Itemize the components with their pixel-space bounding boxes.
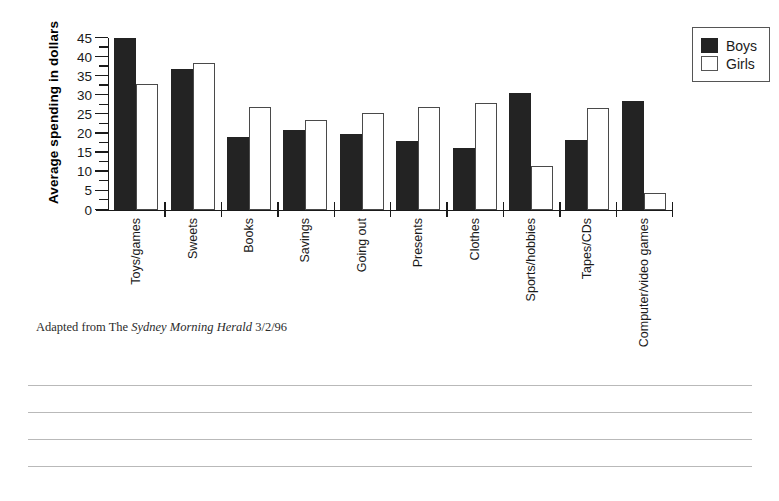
y-tick-label: 0	[62, 204, 92, 218]
legend-swatch-boys-icon	[701, 38, 718, 53]
bar-boys	[622, 101, 644, 210]
caption-prefix: Adapted from The	[36, 320, 131, 334]
bar-boys	[453, 148, 475, 210]
category-label: Clothes	[468, 218, 481, 260]
bar-group	[334, 38, 390, 210]
y-tick	[95, 75, 108, 76]
y-tick	[95, 37, 108, 38]
y-tick-label: 40	[62, 51, 92, 65]
y-tick	[95, 132, 108, 133]
bar-group	[616, 38, 672, 210]
y-tick-minor	[99, 84, 108, 85]
bar-girls	[136, 84, 158, 210]
bar-group	[559, 38, 615, 210]
x-axis-end-tick	[672, 202, 673, 217]
bar-groups	[108, 38, 672, 210]
bar-girls	[249, 107, 271, 210]
y-tick-minor	[99, 46, 108, 47]
category-label: Sweets	[186, 218, 199, 259]
bar-group	[108, 38, 164, 210]
bar-boys	[340, 134, 362, 210]
plot-area: 051015202530354045	[108, 38, 672, 210]
category-label-cell: Computer/video games	[616, 214, 672, 354]
ruled-line	[28, 439, 752, 440]
y-tick-label: 25	[62, 108, 92, 122]
category-label: Presents	[412, 218, 425, 267]
y-tick	[95, 170, 108, 171]
y-tick	[95, 94, 108, 95]
caption-source-title: Sydney Morning Herald	[131, 320, 252, 334]
bar-girls	[418, 107, 440, 210]
bar-boys	[509, 93, 531, 210]
y-tick	[95, 56, 108, 57]
y-tick-label: 15	[62, 146, 92, 160]
bar-boys	[227, 137, 249, 210]
category-label: Going out	[356, 218, 369, 272]
category-label: Computer/video games	[638, 218, 651, 347]
y-tick-minor	[99, 65, 108, 66]
y-tick-minor	[99, 142, 108, 143]
bar-girls	[587, 108, 609, 210]
ruled-line	[28, 466, 752, 467]
y-tick-minor	[99, 180, 108, 181]
y-tick	[95, 190, 108, 191]
y-tick-label: 45	[62, 32, 92, 46]
caption-date: 3/2/96	[252, 320, 287, 334]
bar-boys	[171, 69, 193, 210]
y-tick	[95, 113, 108, 114]
bar-boys	[565, 140, 587, 210]
legend-item-boys: Boys	[701, 38, 757, 53]
ruled-line	[28, 385, 752, 386]
category-label: Toys/games	[130, 218, 143, 285]
y-tick-minor	[99, 161, 108, 162]
y-tick-minor	[99, 123, 108, 124]
legend-item-girls: Girls	[701, 56, 757, 71]
bar-boys	[283, 130, 305, 210]
bar-group	[446, 38, 502, 210]
y-tick-label: 20	[62, 127, 92, 141]
category-label-cell: Presents	[390, 214, 446, 354]
ruled-writing-lines	[28, 385, 752, 493]
legend-label-boys: Boys	[726, 39, 757, 53]
source-caption: Adapted from The Sydney Morning Herald 3…	[36, 320, 287, 335]
legend-label-girls: Girls	[726, 57, 755, 71]
y-tick-label: 35	[62, 70, 92, 84]
bar-group	[164, 38, 220, 210]
x-axis-line	[96, 210, 672, 211]
y-tick-label: 5	[62, 184, 92, 198]
chart-page: Average spending in dollars 051015202530…	[0, 0, 779, 501]
y-tick-minor	[99, 104, 108, 105]
legend: Boys Girls	[692, 27, 770, 82]
y-tick-label: 30	[62, 89, 92, 103]
bar-boys	[396, 141, 418, 210]
category-label-cell: Clothes	[446, 214, 502, 354]
bar-girls	[362, 113, 384, 210]
bar-group	[390, 38, 446, 210]
category-label-cell: Tapes/CDs	[559, 214, 615, 354]
bar-group	[277, 38, 333, 210]
bar-group	[503, 38, 559, 210]
category-label-cell: Sports/hobbies	[503, 214, 559, 354]
bar-group	[221, 38, 277, 210]
y-tick	[95, 209, 108, 210]
category-label: Books	[243, 218, 256, 253]
bar-boys	[114, 38, 136, 210]
bar-girls	[475, 103, 497, 210]
category-label-cell: Going out	[334, 214, 390, 354]
legend-swatch-girls-icon	[701, 56, 718, 71]
category-label: Sports/hobbies	[525, 218, 538, 301]
category-label: Savings	[299, 218, 312, 262]
bar-girls	[193, 63, 215, 210]
category-label: Tapes/CDs	[581, 218, 594, 279]
ruled-line	[28, 412, 752, 413]
bar-girls	[531, 166, 553, 210]
y-tick-label: 10	[62, 165, 92, 179]
bar-girls	[644, 193, 666, 210]
y-axis-title: Average spending in dollars	[46, 13, 61, 213]
y-tick-minor	[99, 199, 108, 200]
bar-girls	[305, 120, 327, 210]
y-tick	[95, 151, 108, 152]
